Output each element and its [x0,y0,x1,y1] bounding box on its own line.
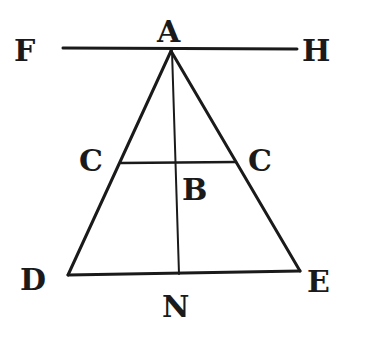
geometry-diagram: F A H C C B D E N [0,0,375,341]
label-n: N [162,289,189,324]
label-a: A [156,14,181,49]
label-c-left: C [79,143,103,178]
label-b: B [182,172,207,207]
base-de [68,271,300,275]
label-e: E [307,264,330,299]
label-c-right: C [248,143,272,178]
line-cc [121,162,236,163]
label-h: H [302,33,330,68]
label-f: F [14,33,35,68]
label-d: D [20,262,46,297]
